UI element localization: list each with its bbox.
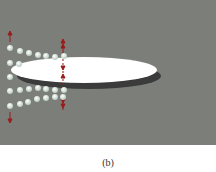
particle-dot (7, 103, 13, 109)
particle-dot (52, 87, 58, 93)
particle-dot (35, 52, 41, 58)
white-ellipse (11, 57, 157, 83)
particle-dot (7, 74, 13, 80)
particle-dot (25, 99, 31, 105)
figure-caption-label: (b) (0, 157, 216, 168)
figure-panel (0, 0, 216, 145)
particle-dot (17, 101, 23, 107)
particle-dot (43, 86, 49, 92)
particle-dot (7, 60, 13, 66)
particle-dot (35, 85, 41, 91)
right-top-arrow-icon (61, 39, 65, 53)
particle-dot (60, 94, 66, 100)
particle-dot (52, 94, 58, 100)
particle-dot (43, 53, 49, 59)
particle-dot (17, 87, 23, 93)
left-top-arrow-icon (8, 31, 12, 42)
particle-dot (26, 50, 32, 56)
particle-dot (7, 45, 13, 51)
particle-dot (17, 48, 23, 54)
particle-dot (7, 88, 13, 94)
left-bottom-arrow-icon (8, 112, 12, 123)
particle-dot (61, 53, 67, 59)
particle-dot (16, 61, 22, 67)
particle-dot (26, 86, 32, 92)
particle-dot (34, 96, 40, 102)
particle-dot (52, 54, 58, 60)
particle-dot (43, 95, 49, 101)
ellipse-flow-illustration (0, 0, 216, 145)
particle-dot (61, 87, 67, 93)
